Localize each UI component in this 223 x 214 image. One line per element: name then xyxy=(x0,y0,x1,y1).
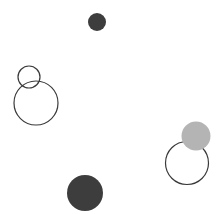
filled-circle-gray-filled xyxy=(182,122,211,151)
background xyxy=(0,0,223,214)
filled-circle-dark-small xyxy=(88,13,106,31)
circles-diagram xyxy=(0,0,223,214)
filled-circle-dark-large xyxy=(67,175,103,211)
